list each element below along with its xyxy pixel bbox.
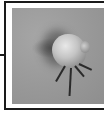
mite-leg (79, 63, 93, 71)
specimen-photo (12, 8, 104, 104)
mite-leg (55, 66, 66, 83)
mite-head (80, 41, 90, 53)
mite-leg (69, 68, 72, 96)
leader-line (0, 54, 6, 56)
